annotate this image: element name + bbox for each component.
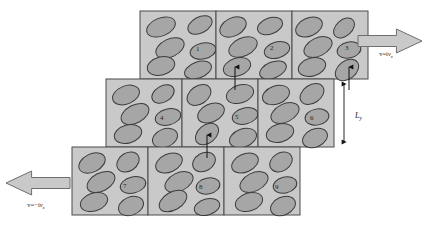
simulation-cell-3[interactable]: 3 [292, 11, 368, 85]
cell-number-label: 3 [345, 44, 349, 52]
simulation-cell-6[interactable]: 6 [258, 79, 334, 152]
simulation-cell-4[interactable]: 4 [106, 79, 183, 151]
velocity-label: v=−ivx [27, 201, 44, 210]
bottom-left-velocity: v=−ivx [6, 171, 70, 210]
cell-row-2: 789 [72, 147, 300, 220]
cell-number-label: 5 [235, 113, 239, 121]
simulation-cell-1[interactable]: 1 [140, 11, 217, 82]
simulation-cell-8[interactable]: 8 [148, 147, 224, 218]
cell-number-label: 4 [160, 114, 164, 122]
cell-number-label: 6 [310, 114, 314, 122]
simulation-cell-9[interactable]: 9 [224, 147, 300, 220]
cell-row-0: 123 [140, 11, 368, 85]
cell-number-label: 2 [270, 44, 274, 52]
velocity-label: v=ivx [379, 50, 393, 59]
diagram-canvas: 123456789 Ly v=ivxv=−ivx [0, 0, 425, 228]
simulation-cell-2[interactable]: 2 [216, 11, 292, 83]
simulation-cell-5[interactable]: 5 [182, 79, 260, 151]
cell-number-label: 9 [275, 183, 279, 191]
velocity-arrow-icon [6, 171, 70, 195]
simulation-cell-diagram: 123456789 Ly v=ivxv=−ivx [0, 0, 425, 228]
cell-number-label: 7 [123, 182, 127, 190]
simulation-cell-7[interactable]: 7 [72, 147, 148, 219]
Ly-dimension-label: Ly [354, 111, 362, 121]
cell-number-label: 8 [199, 183, 203, 191]
Ly-dimension-group: Ly [344, 84, 362, 142]
cells-layer: 123456789 [72, 11, 368, 220]
cell-number-label: 1 [196, 45, 200, 53]
cell-row-1: 456 [106, 79, 334, 152]
